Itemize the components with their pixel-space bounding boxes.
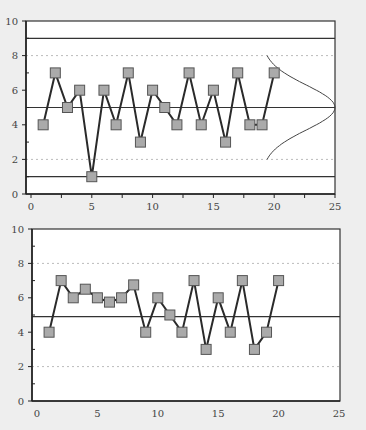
data-point-marker (99, 85, 109, 95)
data-point-marker (129, 280, 139, 290)
y-tick-label: 10 (5, 16, 18, 27)
data-point-marker (111, 120, 121, 130)
x-tick-label: 25 (333, 408, 346, 419)
data-point-marker (196, 120, 206, 130)
x-tick-label: 0 (34, 408, 40, 419)
y-tick-label: 6 (18, 292, 24, 303)
data-point-marker (38, 120, 48, 130)
data-point-marker (249, 344, 259, 354)
control-charts: 02468100510152025 02468100510152025 (0, 0, 366, 430)
data-point-marker (189, 276, 199, 286)
data-point-marker (184, 68, 194, 78)
x-tick-label: 5 (94, 408, 100, 419)
y-tick-label: 2 (12, 154, 18, 165)
data-point-marker (245, 120, 255, 130)
y-tick-label: 4 (18, 327, 24, 338)
data-point-marker (237, 276, 247, 286)
y-tick-label: 10 (11, 224, 24, 235)
x-tick-label: 10 (146, 201, 159, 212)
x-tick-label: 10 (151, 408, 164, 419)
data-point-marker (92, 293, 102, 303)
data-point-marker (44, 327, 54, 337)
data-point-marker (201, 344, 211, 354)
x-tick-label: 25 (329, 201, 342, 212)
data-point-marker (75, 85, 85, 95)
data-point-marker (141, 327, 151, 337)
data-point-marker (172, 120, 182, 130)
data-point-marker (221, 137, 231, 147)
y-tick-label: 0 (18, 396, 24, 407)
y-tick-label: 4 (12, 119, 18, 130)
data-point-marker (123, 68, 133, 78)
bottom-control-chart: 02468100510152025 (11, 224, 345, 420)
data-point-marker (225, 327, 235, 337)
x-tick-label: 15 (212, 408, 225, 419)
data-point-marker (274, 276, 284, 286)
data-point-marker (117, 293, 127, 303)
data-point-marker (165, 310, 175, 320)
y-tick-label: 8 (12, 50, 18, 61)
data-point-marker (257, 120, 267, 130)
y-tick-label: 0 (12, 189, 18, 200)
x-tick-label: 20 (272, 408, 285, 419)
x-tick-label: 15 (207, 201, 220, 212)
data-point-marker (148, 85, 158, 95)
x-tick-label: 0 (28, 201, 34, 212)
data-point-marker (233, 68, 243, 78)
data-point-marker (50, 68, 60, 78)
data-point-marker (68, 293, 78, 303)
data-point-marker (208, 85, 218, 95)
data-point-marker (213, 293, 223, 303)
x-tick-label: 20 (268, 201, 281, 212)
data-point-marker (160, 103, 170, 113)
y-tick-label: 2 (18, 361, 24, 372)
data-point-marker (62, 103, 72, 113)
x-tick-label: 5 (89, 201, 95, 212)
data-point-marker (153, 293, 163, 303)
data-point-marker (269, 68, 279, 78)
data-point-marker (87, 172, 97, 182)
data-point-marker (262, 327, 272, 337)
y-tick-label: 8 (18, 258, 24, 269)
y-tick-label: 6 (12, 85, 18, 96)
data-point-marker (56, 276, 66, 286)
data-point-marker (104, 297, 114, 307)
data-point-marker (80, 284, 90, 294)
data-point-marker (177, 327, 187, 337)
top-control-chart: 02468100510152025 (5, 16, 341, 213)
data-point-marker (135, 137, 145, 147)
